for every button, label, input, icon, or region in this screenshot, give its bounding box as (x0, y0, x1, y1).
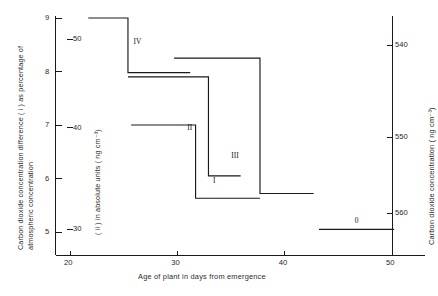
y-right-tick-label-540: 540 (395, 40, 408, 49)
figure-container: Carbon dioxide concentration difference … (0, 0, 438, 296)
curve-label-0: 0 (355, 216, 359, 225)
y-left-secondary-tick-label-50: 50 (73, 34, 81, 43)
curve-label-III: III (231, 151, 238, 160)
y-left-tick-label-6: 6 (45, 174, 49, 183)
curve-label-IV: IV (134, 37, 142, 46)
x-tick-label-50: 50 (386, 258, 394, 267)
y-left-secondary-tick-label-40: 40 (73, 123, 81, 132)
label-overlay: 2030405056789304050540550560IVIIIIII0 (0, 0, 438, 296)
y-left-tick-label-8: 8 (45, 67, 49, 76)
y-left-tick-label-9: 9 (45, 13, 49, 22)
y-right-tick-label-560: 560 (395, 208, 408, 217)
curve-label-II: II (187, 123, 192, 132)
y-left-secondary-tick-label-30: 30 (73, 224, 81, 233)
x-tick-label-40: 40 (279, 258, 287, 267)
x-tick-label-20: 20 (64, 258, 72, 267)
y-left-tick-label-5: 5 (45, 227, 49, 236)
x-tick-label-30: 30 (171, 258, 179, 267)
y-right-tick-label-550: 550 (395, 132, 408, 141)
y-left-tick-label-7: 7 (45, 120, 49, 129)
curve-label-I: I (213, 176, 215, 185)
